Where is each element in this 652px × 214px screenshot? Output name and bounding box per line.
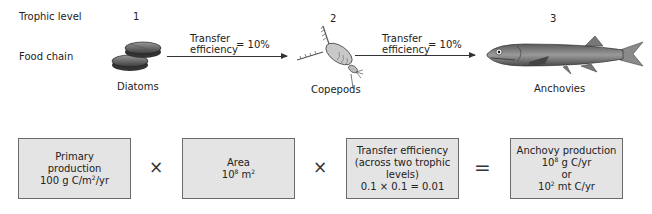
anchovy-fish-icon [485,32,645,78]
arrow-right-icon [167,56,287,57]
transfer-efficiency-value-1: = 10% [236,39,270,50]
area-box: Area 108 m2 [182,138,295,199]
transfer-efficiency-box: Transfer efficiency (across two trophic … [346,138,459,199]
trophic-level-label: Trophic level [19,11,82,22]
box-text: 100 g C/m2/yr [40,175,109,187]
box-text: Transfer efficiency [357,145,448,157]
box-text: Primary [55,151,94,163]
equals-operator: = [474,155,491,179]
box-text: (across two trophic [355,157,450,169]
multiply-operator-1: × [149,157,163,177]
box-text: 108 g C/yr [542,157,592,169]
primary-production-box: Primary production 100 g C/m2/yr [18,138,131,199]
food-chain-label: Food chain [19,51,73,62]
multiply-operator-2: × [313,157,327,177]
transfer-line2: efficiency [382,44,430,55]
box-text: 108 m2 [222,169,255,181]
box-text: levels) [386,169,419,181]
box-text: Anchovy production [517,145,617,157]
organism-label-copepods: Copepods [311,84,361,95]
anchovy-production-box: Anchovy production 108 g C/yr or 102 mt … [510,138,623,199]
arrow-right-icon [355,55,475,56]
organism-label-diatoms: Diatoms [117,81,159,92]
box-text: Area [227,157,250,169]
trophic-level-1: 1 [133,11,139,22]
trophic-level-3: 3 [550,13,556,24]
transfer-efficiency-label-2: Transfer efficiency [382,33,430,55]
transfer-line1: Transfer [382,33,430,44]
box-text: 102 mt C/yr [538,181,595,193]
diatom-icon [110,38,164,74]
organism-label-anchovies: Anchovies [534,83,585,94]
transfer-line2: efficiency [190,44,238,55]
transfer-efficiency-label-1: Transfer efficiency [190,33,238,55]
copepod-icon [293,22,365,92]
transfer-efficiency-value-2: = 10% [428,39,462,50]
transfer-line1: Transfer [190,33,238,44]
box-text: 0.1 × 0.1 = 0.01 [361,181,445,193]
box-text: or [561,169,571,181]
